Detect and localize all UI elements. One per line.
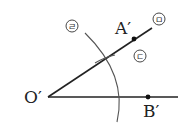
svg-text:ㄷ: ㄷ — [136, 52, 144, 62]
label-a: A′ — [114, 18, 131, 38]
svg-text:ㄹ: ㄹ — [68, 22, 76, 32]
angle-construction-diagram: O′ A′ B′ ㄹ ㅁ ㄷ — [0, 0, 194, 140]
step-label-arc-large: ㄹ — [66, 20, 78, 32]
arc-large — [85, 33, 119, 122]
point-b — [146, 95, 151, 100]
step-label-ray-upper: ㅁ — [153, 13, 165, 25]
point-a — [132, 37, 137, 42]
ray-oa — [48, 28, 152, 97]
svg-text:ㅁ: ㅁ — [155, 15, 163, 25]
label-o: O′ — [24, 87, 42, 107]
label-b: B′ — [143, 101, 159, 121]
step-label-arc-small: ㄷ — [134, 50, 146, 62]
